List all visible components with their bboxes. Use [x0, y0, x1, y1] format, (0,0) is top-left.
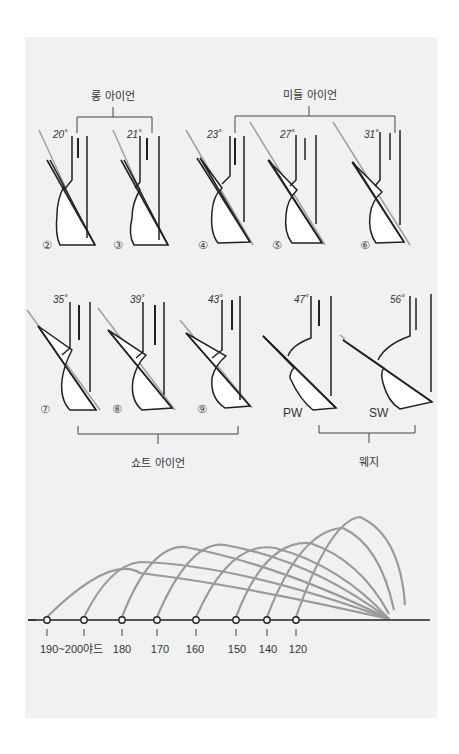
- short-iron-group: [78, 426, 238, 444]
- loft-35: 35˚: [53, 294, 68, 305]
- club-loft-diagram: 롱 아이언 미들 아이언 20˚ ② 21˚ ③ 23˚ ④: [0, 0, 459, 754]
- loft-27: 27˚: [279, 129, 295, 140]
- wedge-label: 웨지: [359, 456, 379, 469]
- loft-21: 21˚: [126, 129, 142, 140]
- distance-label-160: 160: [186, 643, 204, 655]
- loft-56: 56˚: [390, 294, 405, 305]
- club-8-illustration: [98, 302, 175, 410]
- loft-39: 39˚: [130, 294, 145, 305]
- loft-43: 43˚: [208, 294, 223, 305]
- club-5-illustration: [250, 122, 325, 245]
- loft-47: 47˚: [294, 294, 309, 305]
- club-marker-9: ⑨: [197, 403, 207, 416]
- club-3-illustration: [113, 130, 168, 245]
- middle-iron-label: 미들 아이언: [283, 89, 337, 102]
- club-marker-4: ④: [198, 239, 208, 252]
- club-marker-5: ⑤: [272, 239, 282, 252]
- distance-label-190-200: 190~200야드: [40, 643, 103, 655]
- club-7-illustration: [27, 302, 100, 410]
- club-marker-pw: PW: [283, 406, 303, 420]
- club-marker-8: ⑧: [112, 403, 122, 416]
- club-sw-illustration: [340, 294, 432, 409]
- distance-label-150: 150: [228, 643, 246, 655]
- club-4-illustration: [186, 130, 253, 245]
- short-iron-label: 쇼트 아이언: [131, 457, 185, 470]
- long-iron-label: 롱 아이언: [91, 90, 135, 103]
- distance-label-170: 170: [151, 643, 169, 655]
- wedge-group: [319, 425, 415, 443]
- club-marker-7: ⑦: [40, 403, 50, 416]
- distance-label-140: 140: [259, 643, 277, 655]
- distance-label-180: 180: [113, 643, 131, 655]
- loft-23: 23˚: [206, 129, 222, 140]
- club-6-illustration: [333, 122, 410, 245]
- loft-20: 20˚: [52, 129, 68, 140]
- ball-trajectories: [47, 517, 405, 619]
- distance-ticks: [47, 629, 296, 636]
- club-marker-2: ②: [42, 239, 52, 252]
- distance-label-120: 120: [289, 643, 307, 655]
- club-marker-sw: SW: [369, 406, 389, 420]
- club-pw-illustration: [263, 296, 336, 410]
- club-2-illustration: [39, 130, 95, 245]
- club-marker-6: ⑥: [360, 239, 370, 252]
- loft-31: 31˚: [364, 129, 379, 140]
- club-marker-3: ③: [113, 239, 123, 252]
- club-9-illustration: [180, 296, 252, 408]
